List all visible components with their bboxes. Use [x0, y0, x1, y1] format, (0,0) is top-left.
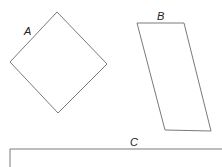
shape-a-label: A	[23, 25, 31, 37]
diagram-canvas: A B C	[0, 0, 222, 167]
shape-b-label: B	[157, 10, 164, 22]
shape-c-rectangle	[10, 149, 222, 167]
shape-c-label: C	[130, 136, 138, 148]
shape-b-parallelogram	[137, 23, 211, 131]
